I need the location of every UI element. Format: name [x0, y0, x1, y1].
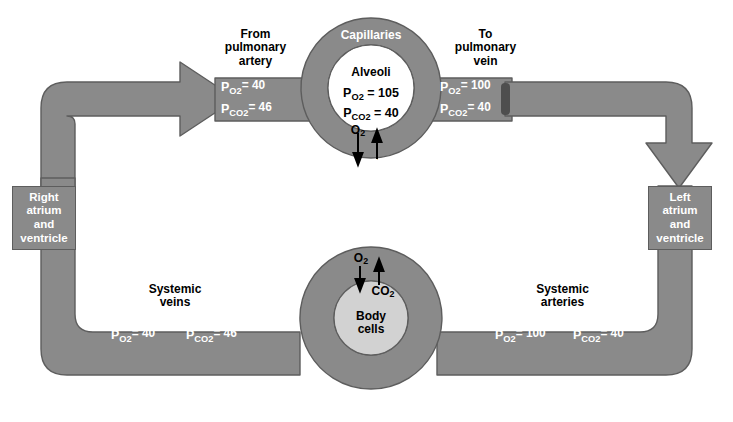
left-heart-box: Left atrium and ventricle — [648, 186, 712, 250]
pulmonary-outflow-pipe — [505, 82, 712, 188]
gas-exchange-diagram: Capillaries Alveoli PO2 = 105 PCO2 = 40 … — [0, 0, 733, 422]
systemic-arteries-pipe — [437, 240, 692, 375]
circulation-vessel-graphics — [0, 0, 733, 422]
right-heart-label: Right atrium and ventricle — [20, 191, 67, 245]
body-cells-circle — [334, 281, 408, 355]
right-heart-box: Right atrium and ventricle — [12, 186, 76, 250]
pulmonary-vein-valve-bar — [501, 83, 510, 115]
left-heart-label: Left atrium and ventricle — [656, 191, 703, 245]
pulmonary-o2-arrowhead — [354, 153, 363, 165]
alveoli-circle — [328, 45, 414, 131]
pulmonary-inflow-vessel-stub — [215, 78, 312, 121]
systemic-veins-pipe — [41, 240, 300, 375]
pulmonary-outflow-vessel-stub — [430, 78, 512, 121]
